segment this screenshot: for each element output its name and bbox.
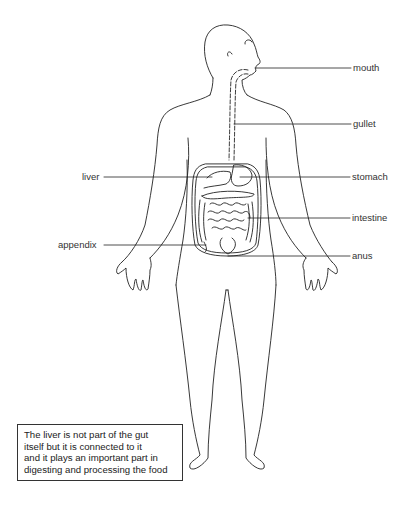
abdominal-cavity [192, 164, 261, 256]
label-intestine: intestine [352, 213, 387, 223]
hands-outline [117, 258, 338, 290]
note-line: and it plays an important part in [24, 452, 178, 464]
torso-outline [122, 95, 332, 285]
liver-note-box: The liver is not part of the gut itself … [17, 424, 183, 481]
label-mouth: mouth [353, 63, 379, 73]
label-liver: liver [82, 172, 99, 182]
head-outline [204, 25, 260, 95]
legs-outline [176, 285, 276, 469]
gullet-tube [229, 69, 248, 160]
label-stomach: stomach [352, 172, 388, 182]
label-appendix: appendix [58, 240, 97, 250]
note-line: The liver is not part of the gut [24, 429, 178, 441]
note-line: digesting and processing the food [24, 464, 178, 476]
label-gullet: gullet [353, 119, 376, 129]
note-line: itself but it is connected to it [24, 441, 178, 453]
leader-lines [104, 68, 351, 256]
label-anus: anus [352, 251, 373, 261]
